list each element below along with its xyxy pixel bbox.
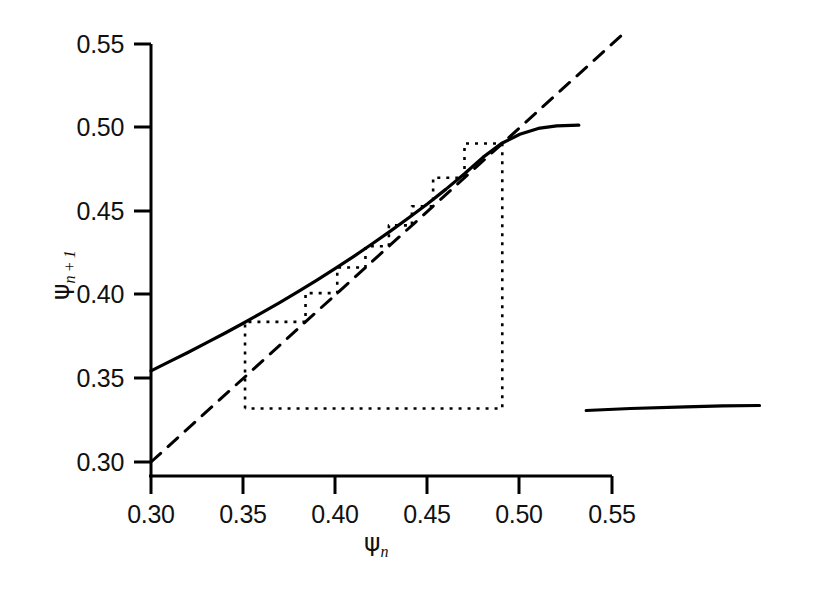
y-tick-label-2: 0.45 (32, 197, 124, 226)
x-tick-label-0: 0.30 (105, 500, 197, 529)
x-tick-label-1: 0.35 (197, 500, 289, 529)
series-cobweb-trajectory (245, 143, 502, 408)
y-axis-title: ψn + 1 (46, 250, 79, 300)
y-tick-label-0: 0.55 (32, 30, 124, 59)
x-tick-label-2: 0.40 (289, 500, 381, 529)
axis-spines (149, 44, 612, 476)
x-tick-label-4: 0.50 (473, 500, 565, 529)
series-map-lower-branch (586, 405, 759, 410)
x-tick-label-3: 0.45 (381, 500, 473, 529)
y-axis-psi-glyph: ψ (46, 284, 75, 301)
y-tick-label-4: 0.35 (32, 364, 124, 393)
data-series-layer (151, 36, 760, 462)
x-axis-subscript: n (381, 543, 389, 560)
series-identity-line (151, 36, 621, 462)
y-tick-label-5: 0.30 (32, 448, 124, 477)
y-axis-ticks (134, 44, 151, 462)
y-tick-label-1: 0.50 (32, 113, 124, 142)
cobweb-figure: 0.55 0.50 0.45 0.40 0.35 0.30 0.30 0.35 … (0, 0, 823, 589)
x-axis-title: ψn (364, 528, 389, 561)
x-axis-ticks (151, 476, 612, 494)
y-axis-subscript: n + 1 (61, 250, 78, 283)
x-tick-label-5: 0.55 (566, 500, 658, 529)
x-axis-psi-glyph: ψ (364, 528, 381, 557)
